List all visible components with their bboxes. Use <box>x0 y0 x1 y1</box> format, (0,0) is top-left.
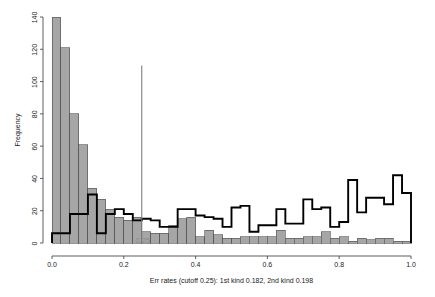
x-axis-label: Err rates (cutoff 0.25): 1st kind 0.182,… <box>150 277 313 285</box>
histogram-bar <box>249 237 258 243</box>
histogram-bar <box>312 237 321 243</box>
x-tick-label: 1.0 <box>406 261 416 268</box>
histogram-bar <box>285 238 294 243</box>
histogram-bar <box>61 48 70 243</box>
histogram-bar <box>393 241 402 243</box>
histogram-bar <box>70 114 79 243</box>
y-tick-label: 80 <box>31 110 38 118</box>
y-tick-label: 20 <box>31 207 38 215</box>
histogram-bar <box>303 237 312 243</box>
y-axis-label: Frequency <box>14 113 22 147</box>
cutoff-annotation: 0.25 <box>135 236 150 245</box>
histogram-bar <box>276 230 285 243</box>
x-tick-label: 0.8 <box>334 261 344 268</box>
histogram-bar <box>196 237 205 243</box>
histogram-bar <box>178 219 187 243</box>
histogram-bar <box>115 217 124 243</box>
histogram-bar <box>232 238 241 243</box>
y-tick-label: 40 <box>31 175 38 183</box>
histogram-bar <box>124 220 133 243</box>
y-tick-label: 140 <box>31 12 38 24</box>
histogram-bar <box>348 241 357 243</box>
histogram-bar <box>321 232 330 243</box>
histogram-bar <box>169 225 178 243</box>
histogram-bar <box>151 233 160 243</box>
histogram-bar <box>339 237 348 243</box>
histogram-bar <box>240 237 249 243</box>
histogram-bar <box>52 17 61 243</box>
x-tick-label: 0.4 <box>191 261 201 268</box>
histogram-bar <box>223 238 232 243</box>
histogram-bar <box>88 188 97 243</box>
histogram-bar <box>330 238 339 243</box>
histogram-bar <box>357 238 366 243</box>
x-tick-label: 0.6 <box>263 261 273 268</box>
y-tick-label: 120 <box>31 44 38 56</box>
histogram-bar <box>402 241 411 243</box>
histogram-bar <box>214 235 223 243</box>
y-tick-label: 100 <box>31 76 38 88</box>
histogram-bar <box>187 217 196 243</box>
plot-canvas: 0204060801001201400.00.20.40.60.81.0Freq… <box>0 0 435 297</box>
x-tick-label: 0.0 <box>47 261 57 268</box>
histogram-bar <box>258 237 267 243</box>
histogram-bar <box>384 238 393 243</box>
histogram-bar <box>79 145 88 243</box>
histogram-bar <box>160 233 169 243</box>
histogram-bar <box>97 199 106 243</box>
histogram-bar <box>267 237 276 243</box>
y-tick-label: 60 <box>31 143 38 151</box>
histogram-bar <box>294 238 303 243</box>
histogram-figure: 0204060801001201400.00.20.40.60.81.0Freq… <box>0 0 435 297</box>
x-tick-label: 0.2 <box>119 261 129 268</box>
histogram-bar <box>205 230 214 243</box>
histogram-bar <box>375 238 384 243</box>
y-tick-label: 0 <box>31 241 38 245</box>
histogram-bar <box>366 240 375 243</box>
